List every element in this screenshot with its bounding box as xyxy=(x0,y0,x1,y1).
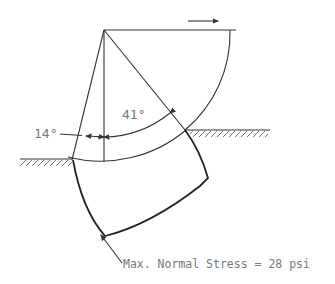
stress-diagram: 14° 41° Max. Normal Stress = 28 psi xyxy=(0,0,335,284)
diagram-drawing xyxy=(0,0,335,284)
stress-envelope xyxy=(73,130,208,236)
max-stress-leader xyxy=(101,235,122,263)
max-stress-caption: Max. Normal Stress = 28 psi xyxy=(123,257,310,271)
ground-hatch-left xyxy=(20,160,72,166)
ground-hatch-right xyxy=(190,131,268,137)
left-wall-line xyxy=(72,30,104,160)
outer-arc xyxy=(185,30,230,130)
angle-41-label: 41° xyxy=(122,107,145,122)
angle-14-label: 14° xyxy=(34,126,57,141)
